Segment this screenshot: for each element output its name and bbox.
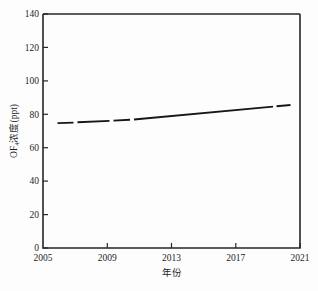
y-tick-label: 140 [25,9,40,19]
y-tick-label: 60 [30,143,40,153]
series-segment [114,120,131,121]
x-tick-labels: 2005 2009 2013 2017 2021 [34,253,310,263]
series-segment [58,123,74,124]
series-segment [78,121,110,122]
y-tick-label: 0 [34,243,39,253]
x-axis-title: 年份 [162,267,182,278]
y-tick-label: 100 [25,76,40,86]
y-tick-label: 40 [30,176,40,186]
x-tick-label: 2005 [34,253,53,263]
series-segment [134,107,273,120]
x-tick-label: 2009 [98,253,117,263]
y-axis-title: OF₄浓度(ppt) [8,104,20,158]
y-axis-title-main: OF₄浓度(ppt) [8,104,20,158]
chart-canvas: 0 20 40 60 80 100 120 140 2005 2009 2013… [0,0,318,291]
y-tick-labels: 0 20 40 60 80 100 120 140 [25,9,40,253]
y-tick-label: 20 [30,210,40,220]
series-segment [277,105,291,106]
x-tick-label: 2017 [226,253,245,263]
plot-frame [43,14,300,248]
y-tick-label: 120 [25,43,40,53]
x-tick-label: 2013 [162,253,181,263]
x-tick-label: 2021 [291,253,310,263]
y-tick-label: 80 [30,110,40,120]
chart-figure: 0 20 40 60 80 100 120 140 2005 2009 2013… [0,0,318,291]
data-series-of4 [58,105,291,123]
